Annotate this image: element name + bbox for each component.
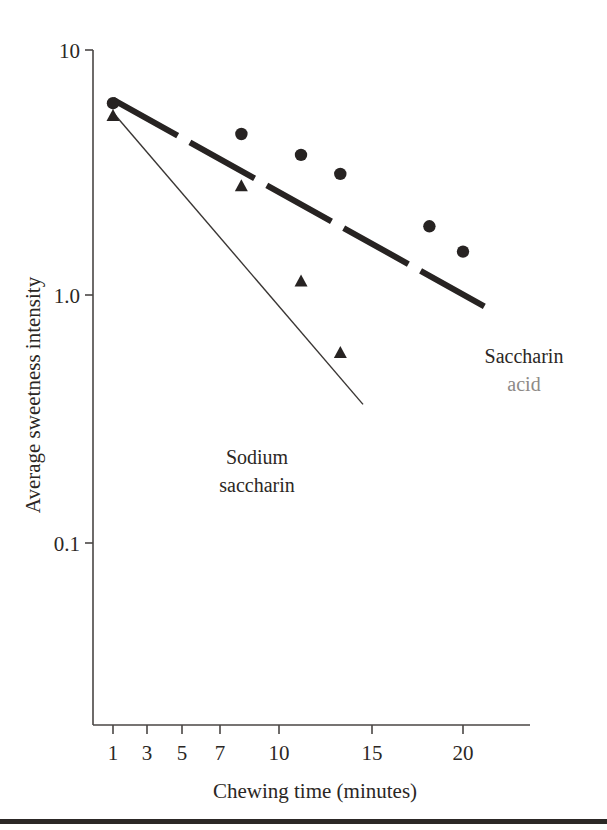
x-tick-label-15: 15 bbox=[362, 741, 383, 765]
series-saccharin-acid bbox=[107, 97, 485, 306]
sodium-saccharin-label-line1: Sodium bbox=[226, 446, 289, 468]
data-point bbox=[334, 168, 346, 180]
sweetness-intensity-chart: 10 1.0 0.1 Average sweetness intensity 1… bbox=[0, 0, 607, 830]
plot-data-layer bbox=[107, 97, 485, 404]
x-tick-label-1: 1 bbox=[108, 741, 119, 765]
data-point bbox=[295, 149, 307, 161]
data-point bbox=[423, 220, 435, 232]
saccharin-acid-label-line2: acid bbox=[507, 373, 540, 395]
x-tick-label-5: 5 bbox=[177, 741, 188, 765]
axis-lines bbox=[93, 50, 530, 725]
data-point bbox=[107, 109, 120, 121]
x-axis-ticks bbox=[113, 725, 463, 734]
y-axis-tick-labels: 10 1.0 0.1 bbox=[54, 39, 80, 556]
y-axis-title: Average sweetness intensity bbox=[21, 276, 45, 513]
x-tick-label-10: 10 bbox=[269, 741, 290, 765]
data-point bbox=[107, 97, 119, 109]
data-point bbox=[295, 274, 308, 286]
chart-figure: 10 1.0 0.1 Average sweetness intensity 1… bbox=[0, 0, 607, 830]
y-tick-label-10: 10 bbox=[59, 39, 80, 63]
x-tick-label-3: 3 bbox=[142, 741, 153, 765]
x-tick-label-20: 20 bbox=[453, 741, 474, 765]
data-point bbox=[235, 128, 247, 140]
series-sodium-saccharin bbox=[107, 109, 364, 404]
page-footer-rule bbox=[0, 819, 607, 824]
sodium-saccharin-label-line2: saccharin bbox=[219, 474, 295, 496]
x-axis-title: Chewing time (minutes) bbox=[213, 779, 417, 803]
x-tick-label-7: 7 bbox=[215, 741, 226, 765]
y-axis-ticks bbox=[85, 50, 93, 543]
trendline-sodium-saccharin bbox=[113, 113, 363, 405]
annotation-saccharin-acid: Saccharin acid bbox=[485, 345, 564, 395]
y-tick-label-1: 1.0 bbox=[54, 284, 80, 308]
data-point bbox=[235, 179, 248, 191]
x-axis-tick-labels: 1 3 5 7 10 15 20 bbox=[108, 741, 474, 765]
data-point bbox=[457, 245, 469, 257]
data-point bbox=[334, 346, 347, 358]
saccharin-acid-label-line1: Saccharin bbox=[485, 345, 564, 367]
y-tick-label-0-1: 0.1 bbox=[54, 532, 80, 556]
annotation-sodium-saccharin: Sodium saccharin bbox=[219, 446, 295, 496]
trendline-saccharin-acid bbox=[113, 100, 484, 307]
